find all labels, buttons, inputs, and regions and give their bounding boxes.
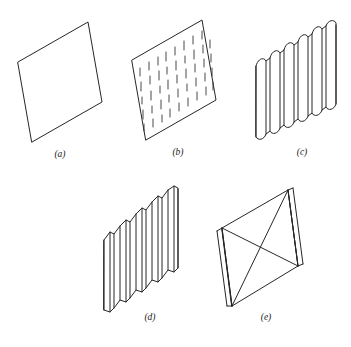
panel-outline-a [18,22,102,142]
panel-outline-b [132,20,216,140]
figure-caption-d: (d) [120,313,180,323]
figure-caption-c: (c) [272,148,332,158]
figure-b-dashed-fill-panel [126,14,222,146]
figure-a-plain-flat-panel [14,18,106,146]
figure-caption-e: (e) [236,313,296,323]
figure-e-x-braced-panel [212,184,308,314]
figure-c-wide-corrugated-panel [248,14,344,146]
figure-d-narrow-corrugated-panel [98,182,214,318]
panel-outline-c [256,21,336,140]
figure-page: (a) [0,0,351,347]
figure-caption-b: (b) [148,148,208,158]
panel-outline-d [104,186,178,312]
figure-caption-a: (a) [30,150,90,160]
